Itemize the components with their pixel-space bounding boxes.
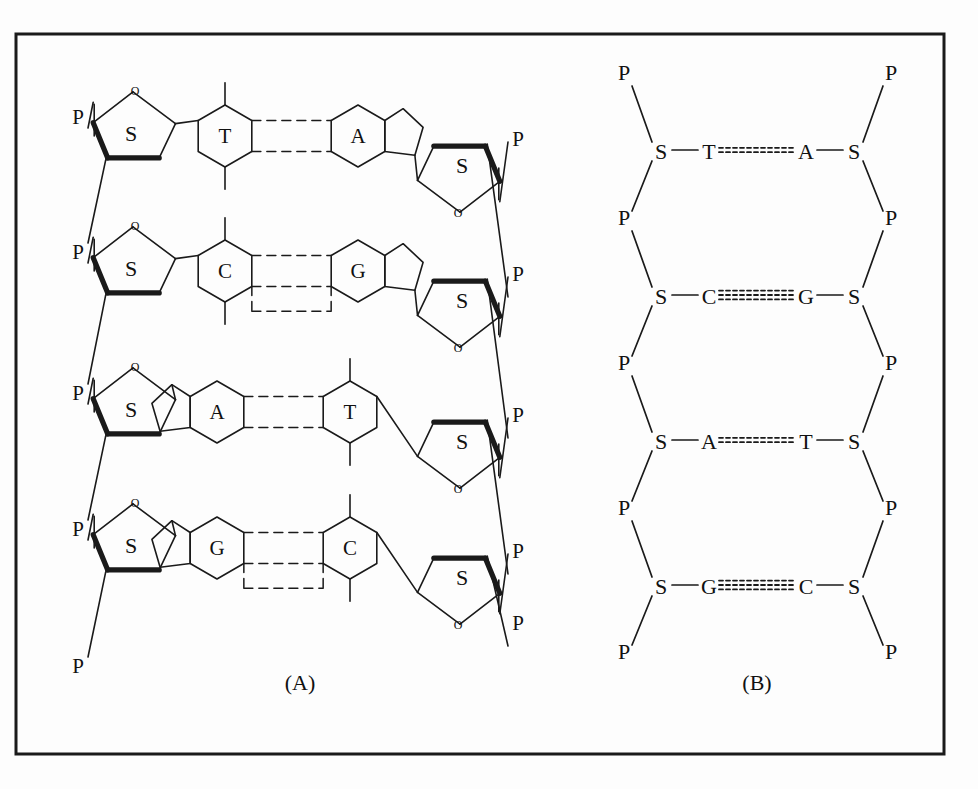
base-label-left-2: A (701, 429, 717, 454)
sugar-oxygen-label: O (454, 206, 463, 220)
sugar-label-left-1: S (655, 284, 667, 309)
base-label-g: G (350, 259, 365, 283)
sugar-oxygen-label: O (454, 618, 463, 632)
base-label-left-1: C (702, 284, 717, 309)
base-label-right-3: C (799, 574, 814, 599)
base-label-c: C (218, 259, 232, 283)
figure-root: SOSOSOSOSOSOSOSOPPPPPPPPPPTACGATGC PPPPP… (0, 0, 978, 789)
base-label-a: A (209, 400, 225, 424)
phosphate-label-right-3: P (512, 539, 524, 563)
sugar-oxygen-label: O (454, 341, 463, 355)
sugar-oxygen-label: O (131, 219, 140, 233)
panel-b-caption: (B) (742, 670, 771, 695)
phosphate-label-left-0: P (618, 60, 630, 85)
phosphate-label-right-4: P (885, 639, 897, 664)
phosphate-label-right-0: P (885, 60, 897, 85)
sugar-oxygen-label: O (131, 84, 140, 98)
sugar-oxygen-label: O (131, 360, 140, 374)
phosphate-label-right-1: P (512, 262, 524, 286)
figure-background (0, 0, 978, 789)
sugar-label: S (125, 533, 137, 558)
sugar-label: S (125, 256, 137, 281)
phosphate-label-right-1: P (885, 205, 897, 230)
phosphate-label-right-2: P (885, 350, 897, 375)
sugar-label: S (125, 397, 137, 422)
phosphate-label-right-0: P (512, 127, 524, 151)
phosphate-label-left-1: P (618, 205, 630, 230)
phosphate-label-left-3: P (618, 495, 630, 520)
sugar-label-left-3: S (655, 574, 667, 599)
base-label-left-0: T (702, 139, 716, 164)
sugar-oxygen-label: O (131, 496, 140, 510)
phosphate-label-left-3: P (72, 517, 84, 541)
base-label-a: A (350, 124, 366, 148)
dna-structure-figure: SOSOSOSOSOSOSOSOPPPPPPPPPPTACGATGC PPPPP… (0, 0, 978, 789)
phosphate-label-right-2: P (512, 403, 524, 427)
sugar-label-right-0: S (848, 139, 860, 164)
sugar-label-left-2: S (655, 429, 667, 454)
phosphate-label-left-0: P (72, 105, 84, 129)
sugar-label-right-1: S (848, 284, 860, 309)
phosphate-label-left-4: P (618, 639, 630, 664)
base-label-right-0: A (798, 139, 814, 164)
phosphate-label-right-3: P (885, 495, 897, 520)
phosphate-label-left-2: P (72, 381, 84, 405)
phosphate-label-left-2: P (618, 350, 630, 375)
base-label-right-1: G (798, 284, 814, 309)
sugar-label: S (125, 121, 137, 146)
base-label-g: G (209, 536, 224, 560)
phosphate-label-right-4: P (512, 611, 524, 635)
base-label-t: T (219, 124, 232, 148)
base-label-right-2: T (799, 429, 813, 454)
sugar-label: S (456, 288, 468, 313)
base-label-c: C (343, 536, 357, 560)
phosphate-label-left-4: P (72, 654, 84, 678)
base-label-t: T (344, 400, 357, 424)
phosphate-label-left-1: P (72, 240, 84, 264)
sugar-label: S (456, 153, 468, 178)
sugar-label: S (456, 429, 468, 454)
sugar-label-right-2: S (848, 429, 860, 454)
base-label-left-3: G (701, 574, 717, 599)
sugar-label-left-0: S (655, 139, 667, 164)
sugar-oxygen-label: O (454, 482, 463, 496)
panel-a-caption: (A) (285, 670, 316, 695)
sugar-label: S (456, 565, 468, 590)
sugar-label-right-3: S (848, 574, 860, 599)
